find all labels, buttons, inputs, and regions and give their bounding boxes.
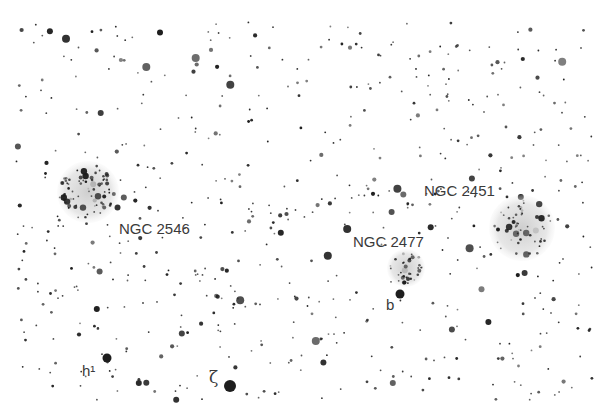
field-star [379, 82, 381, 84]
field-star [445, 316, 447, 318]
field-star [116, 338, 118, 340]
field-star [41, 35, 43, 37]
field-star [120, 252, 122, 254]
cluster-star [394, 258, 397, 261]
field-star [479, 246, 481, 248]
cluster-star [99, 212, 101, 214]
cluster-star [417, 269, 421, 273]
field-star [506, 196, 509, 199]
field-star [547, 368, 549, 370]
field-star [107, 307, 109, 309]
field-star [312, 337, 320, 345]
field-star [286, 208, 288, 210]
star-b [396, 290, 405, 299]
field-star [220, 330, 222, 332]
field-star [23, 225, 25, 227]
field-star [258, 397, 260, 399]
field-star [201, 398, 203, 400]
cluster-star [95, 193, 101, 199]
field-star [429, 203, 432, 206]
field-star [18, 268, 21, 271]
field-star [447, 237, 449, 239]
cluster-star [411, 255, 415, 259]
field-star [565, 224, 569, 228]
cluster-star [402, 275, 405, 278]
field-star [447, 305, 449, 307]
field-star [531, 189, 534, 192]
cluster-star [63, 195, 66, 198]
cluster-star [93, 188, 96, 191]
field-star [260, 340, 262, 342]
field-star [157, 210, 159, 212]
field-star [115, 26, 117, 28]
field-star [485, 319, 491, 325]
field-star [247, 164, 250, 167]
cluster-star [84, 216, 87, 219]
cluster-star [512, 217, 514, 219]
field-star [535, 76, 539, 80]
field-star [576, 154, 579, 157]
field-star [119, 58, 123, 62]
field-star [546, 332, 548, 334]
field-star [195, 62, 199, 66]
field-star [287, 219, 289, 221]
cluster-star [90, 176, 94, 180]
field-star [534, 297, 536, 299]
field-star [522, 270, 528, 276]
cluster-star [523, 251, 529, 257]
field-star [251, 211, 253, 213]
field-star [465, 339, 467, 341]
cluster-star [402, 262, 404, 264]
field-star [191, 70, 195, 74]
field-star [455, 357, 458, 360]
field-star [393, 185, 401, 193]
cluster-star [517, 233, 519, 235]
cluster-star [500, 247, 502, 249]
field-star [389, 209, 395, 215]
cluster-star [538, 215, 544, 221]
field-star [574, 185, 577, 188]
field-star [402, 322, 404, 324]
field-star [410, 119, 412, 121]
field-star [499, 187, 502, 190]
field-star [561, 112, 563, 114]
field-star [368, 83, 370, 85]
field-star [488, 153, 492, 157]
field-star [380, 55, 382, 57]
field-star [296, 179, 299, 182]
field-star [270, 212, 272, 214]
cluster-star [543, 239, 546, 242]
field-star [542, 308, 544, 310]
field-star [501, 68, 503, 70]
cluster-star [543, 228, 545, 230]
field-star [287, 86, 289, 88]
field-star [157, 29, 163, 35]
field-star [319, 153, 323, 157]
cluster-star [519, 238, 522, 241]
cluster-star [78, 180, 80, 182]
cluster-star [99, 185, 101, 187]
field-star [245, 393, 248, 396]
field-star [204, 268, 206, 270]
field-star [377, 54, 380, 57]
field-star [233, 303, 236, 306]
field-star [300, 127, 303, 130]
field-star [539, 91, 541, 93]
field-star [410, 376, 412, 378]
field-star [392, 375, 395, 378]
field-star [45, 112, 47, 114]
field-star [479, 286, 485, 292]
field-star [562, 258, 564, 260]
field-star [328, 201, 332, 205]
cluster-star [406, 276, 408, 278]
field-star [359, 32, 362, 35]
field-star [124, 39, 126, 41]
field-star [566, 161, 568, 163]
field-star [512, 358, 514, 360]
field-star [173, 397, 179, 403]
field-star [298, 94, 301, 97]
field-star [570, 127, 573, 130]
field-star [390, 346, 393, 349]
field-star [119, 242, 121, 244]
field-star [419, 155, 422, 158]
